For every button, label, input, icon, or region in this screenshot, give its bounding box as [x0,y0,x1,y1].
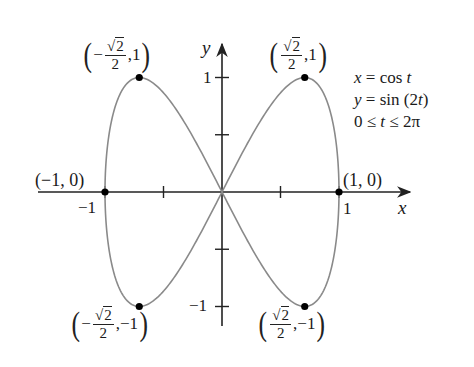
point-marker [136,74,143,81]
numerator: 2 [115,37,124,54]
paren-open: ( [71,307,79,341]
y-value: −1 [120,314,138,334]
point-label-bottom-right: ( √2 2 , −1 ) [257,306,327,342]
paren-close: ) [318,38,326,72]
paren-open: ( [258,307,266,341]
paren-open: ( [269,38,277,72]
paren-open: ( [83,38,91,72]
point-marker [301,74,308,81]
fraction: √2 2 [105,39,126,72]
fraction: √2 2 [281,39,302,72]
eq-fn: cos [380,68,407,87]
y-tick-label-neg1: −1 [189,297,207,314]
eq-param: t [407,68,412,87]
sign: − [81,314,91,334]
point-marker [101,188,108,195]
numerator: 2 [292,37,301,54]
numerator: 2 [281,306,290,323]
eq-op: = [362,68,380,87]
denominator: 2 [277,325,285,341]
eq-op: = [362,90,380,109]
eq-upper: ≤ 2π [385,112,420,131]
sqrt-symbol: √ [95,307,103,323]
x-tick-label-1: 1 [343,200,352,217]
denominator: 2 [100,325,108,341]
denominator: 2 [288,56,296,72]
y-value: 1 [132,45,141,65]
numerator: 2 [103,306,112,323]
y-tick-label-1: 1 [203,69,212,86]
eq-var: x [354,68,362,87]
eq-fn: sin (2 [380,90,418,109]
eq-close: ) [423,90,429,109]
x-tick-label-neg1: −1 [78,199,96,216]
point-label-top-left: ( − √2 2 , 1 ) [82,37,152,73]
point-label-left: (−1, 0) [35,171,84,189]
point-label-bottom-left: ( − √2 2 , −1 ) [70,306,149,342]
paren-close: ) [142,38,150,72]
sqrt-symbol: √ [272,307,280,323]
fraction: √2 2 [270,308,291,341]
denominator: 2 [112,56,120,72]
eq-lower: 0 ≤ [354,112,380,131]
point-marker [335,188,342,195]
point-label-top-right: ( √2 2 , 1 ) [268,37,328,73]
sqrt-symbol: √ [283,38,291,54]
equation-y: y = sin (2t) [354,90,428,110]
y-value: −1 [297,314,315,334]
paren-close: ) [139,307,147,341]
sqrt-symbol: √ [107,38,115,54]
point-label-right: (1, 0) [343,171,382,189]
parametric-figure: x y 1 −1 −1 1 x = cos t y = sin (2t) 0 ≤… [0,0,474,367]
equation-x: x = cos t [354,68,411,88]
y-axis-label: y [202,38,210,57]
x-axis-label: x [398,198,406,217]
equation-t-range: 0 ≤ t ≤ 2π [354,112,420,132]
y-value: 1 [308,45,317,65]
fraction: √2 2 [93,308,114,341]
paren-close: ) [317,307,325,341]
eq-var: y [354,90,362,109]
sign: − [93,45,103,65]
